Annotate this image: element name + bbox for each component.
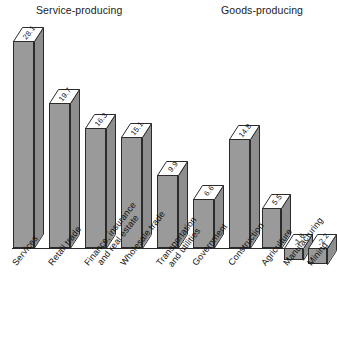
- plot-area: 28.119.716.315.19.96.614.85.5-1.6-2.2: [0, 0, 337, 260]
- bar-side-outline: [34, 27, 45, 250]
- bar-front-face: [49, 103, 70, 248]
- bar-chart: Service-producing Goods-producing 28.119…: [0, 0, 337, 363]
- bar-front-face: [13, 41, 34, 248]
- bar-front-face: [85, 128, 106, 248]
- bar-front-face: [229, 139, 250, 248]
